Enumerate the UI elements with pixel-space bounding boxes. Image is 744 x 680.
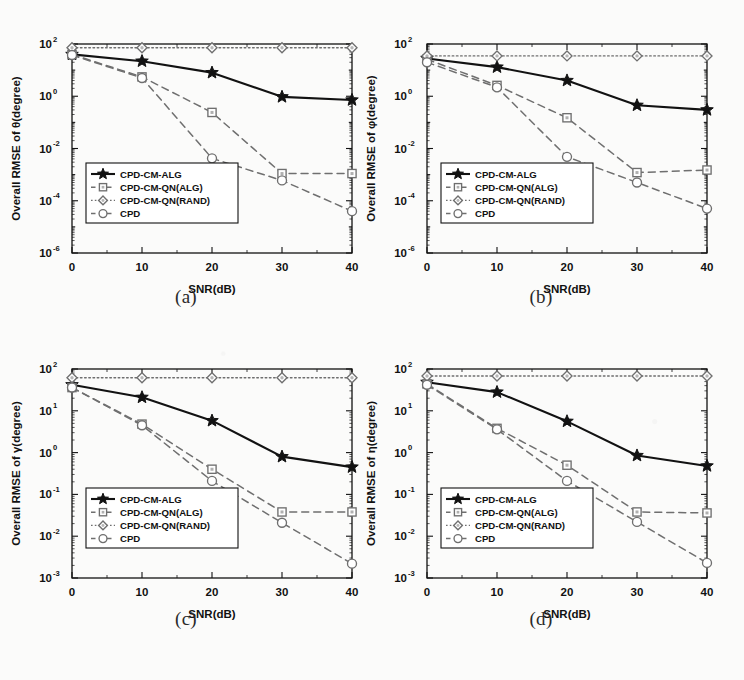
circle-marker bbox=[208, 154, 217, 163]
svg-text:10: 10 bbox=[394, 247, 407, 259]
y-tick-label: 101 bbox=[394, 401, 413, 417]
legend-label: CPD-CM-QN(RAND) bbox=[120, 520, 210, 531]
diamond-marker bbox=[562, 51, 572, 61]
diamond-marker bbox=[137, 373, 147, 383]
y-tick-label: 102 bbox=[39, 35, 57, 51]
legend-label: CPD-CM-QN(RAND) bbox=[475, 520, 565, 531]
diamond-marker bbox=[277, 373, 287, 383]
svg-text:10: 10 bbox=[39, 488, 52, 500]
circle-marker bbox=[633, 517, 642, 526]
circle-marker bbox=[454, 535, 462, 543]
y-axis-label: Overall RMSE of θ(degree) bbox=[10, 76, 22, 220]
legend-label: CPD bbox=[475, 533, 495, 544]
x-tick-label: 0 bbox=[424, 261, 430, 273]
circle-marker bbox=[493, 83, 502, 92]
star-marker bbox=[561, 74, 574, 86]
svg-text:10: 10 bbox=[39, 90, 52, 102]
svg-text:10: 10 bbox=[39, 572, 52, 584]
legend: CPD-CM-ALGCPD-CM-QN(ALG)CPD-CM-QN(RAND)C… bbox=[86, 163, 238, 223]
circle-marker bbox=[68, 383, 77, 392]
subplot-caption-c: (c) bbox=[0, 608, 372, 630]
svg-text:10: 10 bbox=[394, 195, 407, 207]
svg-text:10: 10 bbox=[39, 195, 52, 207]
y-tick-label: 10-6 bbox=[394, 244, 415, 260]
x-tick-label: 40 bbox=[701, 261, 714, 273]
x-tick-label: 10 bbox=[136, 586, 149, 598]
x-tick-label: 0 bbox=[69, 261, 75, 273]
x-tick-label: 0 bbox=[69, 586, 75, 598]
svg-text:0: 0 bbox=[408, 87, 412, 96]
legend-label: CPD-CM-QN(ALG) bbox=[120, 507, 203, 518]
plot-area-c: 10-310-210-1100101102010203040SNR(dB)Ove… bbox=[0, 325, 372, 625]
svg-text:-4: -4 bbox=[53, 191, 61, 200]
svg-text:10: 10 bbox=[39, 363, 52, 375]
svg-text:10: 10 bbox=[394, 405, 407, 417]
square-marker bbox=[454, 184, 461, 191]
square-marker bbox=[278, 508, 286, 516]
svg-text:-2: -2 bbox=[53, 527, 60, 536]
svg-text:10: 10 bbox=[39, 143, 52, 155]
y-tick-label: 10-3 bbox=[394, 569, 415, 585]
diamond-marker bbox=[492, 371, 502, 381]
svg-text:0: 0 bbox=[53, 443, 57, 452]
y-tick-label: 10-1 bbox=[39, 485, 60, 501]
star-marker bbox=[276, 450, 289, 462]
x-tick-label: 30 bbox=[276, 586, 289, 598]
series-line bbox=[72, 385, 352, 467]
diamond-marker bbox=[562, 371, 572, 381]
legend: CPD-CM-ALGCPD-CM-QN(ALG)CPD-CM-QN(RAND)C… bbox=[86, 488, 238, 548]
circle-marker bbox=[138, 421, 147, 430]
diamond-marker bbox=[492, 51, 502, 61]
svg-text:10: 10 bbox=[39, 38, 52, 50]
svg-text:-1: -1 bbox=[408, 485, 416, 494]
svg-text:-3: -3 bbox=[53, 569, 60, 578]
legend-label: CPD-CM-ALG bbox=[475, 169, 537, 180]
star-marker bbox=[276, 90, 289, 102]
svg-text:10: 10 bbox=[394, 90, 407, 102]
legend-label: CPD-CM-ALG bbox=[120, 494, 182, 505]
circle-marker bbox=[454, 210, 462, 218]
square-marker bbox=[703, 166, 711, 174]
x-tick-label: 0 bbox=[424, 586, 430, 598]
y-tick-label: 100 bbox=[39, 443, 57, 459]
diamond-marker bbox=[632, 51, 642, 61]
legend-label: CPD bbox=[120, 533, 140, 544]
y-tick-label: 10-2 bbox=[39, 139, 60, 155]
x-tick-label: 10 bbox=[491, 261, 504, 273]
circle-marker bbox=[703, 204, 712, 213]
subplot-caption-d: (d) bbox=[355, 608, 727, 630]
chart-svg-d: 10-310-210-1100101102010203040SNR(dB)Ove… bbox=[355, 325, 727, 625]
x-tick-label: 10 bbox=[491, 586, 504, 598]
chart-svg-a: 10-610-410-2100102010203040SNR(dB)Overal… bbox=[0, 0, 372, 300]
star-marker bbox=[631, 99, 644, 111]
svg-text:-1: -1 bbox=[53, 485, 61, 494]
circle-marker bbox=[493, 425, 502, 434]
circle-marker bbox=[99, 535, 107, 543]
y-tick-label: 10-2 bbox=[39, 527, 60, 543]
circle-marker bbox=[278, 518, 287, 527]
y-axis-label: Overall RMSE of η(degree) bbox=[365, 401, 377, 546]
y-tick-label: 10-4 bbox=[394, 191, 415, 207]
svg-text:0: 0 bbox=[53, 87, 57, 96]
plot-area-a: 10-610-410-2100102010203040SNR(dB)Overal… bbox=[0, 0, 372, 300]
star-marker bbox=[491, 61, 504, 73]
x-tick-label: 30 bbox=[631, 586, 644, 598]
diamond-marker bbox=[67, 373, 77, 383]
svg-text:10: 10 bbox=[394, 143, 407, 155]
series-line bbox=[427, 58, 707, 109]
series-line bbox=[72, 54, 352, 100]
y-tick-label: 102 bbox=[394, 35, 412, 51]
legend: CPD-CM-ALGCPD-CM-QN(ALG)CPD-CM-QN(RAND)C… bbox=[441, 488, 593, 548]
diamond-marker bbox=[702, 371, 712, 381]
svg-text:-3: -3 bbox=[408, 569, 415, 578]
svg-text:2: 2 bbox=[53, 360, 57, 369]
svg-text:-2: -2 bbox=[408, 527, 415, 536]
svg-text:10: 10 bbox=[394, 38, 407, 50]
y-tick-label: 101 bbox=[39, 401, 58, 417]
svg-text:10: 10 bbox=[394, 488, 407, 500]
circle-marker bbox=[703, 558, 712, 567]
star-marker bbox=[561, 415, 574, 427]
svg-text:10: 10 bbox=[39, 530, 52, 542]
circle-marker bbox=[563, 152, 572, 161]
subplot-caption-b: (b) bbox=[355, 286, 727, 308]
